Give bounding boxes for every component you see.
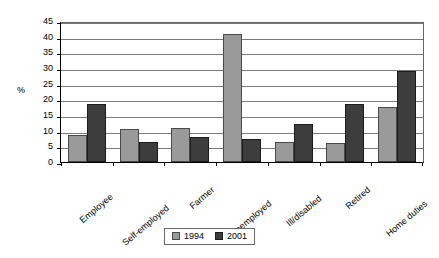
bar-group [320, 23, 372, 162]
bar-1994-employee [68, 135, 87, 162]
y-axis-tick-label: 10 [33, 127, 53, 136]
bar-groups [61, 23, 423, 162]
y-axis-tick-label: 0 [33, 158, 53, 167]
bar-2001-self-employed [139, 142, 158, 162]
bar-group [268, 23, 320, 162]
legend-label: 1994 [184, 231, 204, 241]
legend-swatch-2001 [215, 232, 223, 240]
bar-1994-retired [326, 143, 345, 162]
y-axis-tick-label: 45 [33, 17, 53, 26]
bar-1994-self-employed [120, 129, 139, 162]
y-axis-tick-label: 15 [33, 111, 53, 120]
bar-1994-unemployed [223, 34, 242, 162]
y-axis-tick-label: 40 [33, 33, 53, 42]
bar-1994-farmer [171, 128, 190, 162]
y-axis-title: % [10, 85, 32, 95]
bar-1994-home-duties [378, 107, 397, 162]
bar-2001-employee [87, 104, 106, 162]
y-axis-tick-label: 30 [33, 64, 53, 73]
bar-group [164, 23, 216, 162]
bar-2001-ill-disabled [294, 124, 313, 162]
x-axis-label-retired: Retired [366, 166, 395, 192]
bar-2001-home-duties [397, 71, 416, 162]
y-axis-tick-label: 5 [33, 142, 53, 151]
bar-group [113, 23, 165, 162]
bar-2001-retired [345, 104, 364, 162]
y-axis-tick-label: 25 [33, 80, 53, 89]
y-axis-tick-label: 20 [33, 95, 53, 104]
bar-chart: % 051015202530354045 EmployeeSelf-employ… [0, 0, 439, 258]
bar-group [371, 23, 423, 162]
x-axis-label-ill-disabled: Ill/disabled [317, 166, 356, 201]
bar-2001-farmer [190, 137, 209, 162]
bar-1994-ill-disabled [275, 142, 294, 162]
x-axis-label-farmer: Farmer [210, 166, 239, 192]
chart-legend: 19942001 [164, 228, 255, 245]
x-axis-label-home-duties: Home duties [423, 166, 439, 206]
plot-area [60, 22, 424, 163]
x-axis-label-employee: Employee [108, 166, 145, 199]
legend-entry-2001: 2001 [215, 231, 247, 241]
legend-entry-1994: 1994 [172, 231, 204, 241]
legend-label: 2001 [227, 231, 247, 241]
y-axis-tick-label: 35 [33, 48, 53, 57]
x-axis-tick-labels: EmployeeSelf-employedFarmerUnemployedIll… [60, 166, 424, 226]
legend-swatch-1994 [172, 232, 180, 240]
bar-2001-unemployed [242, 139, 261, 163]
bar-group [216, 23, 268, 162]
bar-group [61, 23, 113, 162]
x-axis-label-unemployed: Unemployed [267, 166, 312, 206]
